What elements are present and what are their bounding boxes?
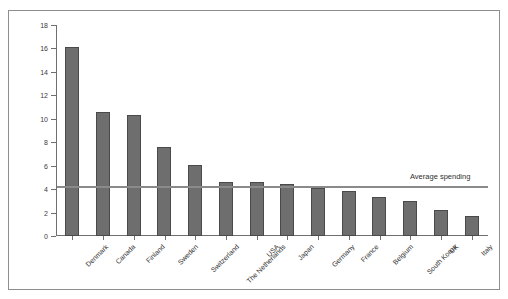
bar-slot	[333, 25, 364, 236]
bar[interactable]	[311, 188, 325, 236]
x-axis-tick-label: Switzerland	[210, 243, 241, 274]
bar-slot	[303, 25, 334, 236]
bar[interactable]	[280, 184, 294, 236]
y-axis-tick-label: 0	[44, 233, 48, 240]
x-axis-tick	[72, 236, 73, 240]
x-axis-tick-label: Denmark	[85, 243, 110, 268]
bar[interactable]	[372, 197, 386, 236]
average-spending-label: Average spending	[410, 172, 470, 181]
bar[interactable]	[127, 115, 141, 236]
y-axis-tick	[51, 48, 56, 49]
x-axis-tick	[103, 236, 104, 240]
bar-slot	[211, 25, 242, 236]
x-axis-tick-label: Canada	[114, 243, 136, 265]
x-axis-tick	[134, 236, 135, 240]
bar[interactable]	[157, 147, 171, 236]
y-axis-tick-label: 10	[40, 115, 48, 122]
figure-caption	[8, 0, 428, 5]
x-axis-tick-label: Japan	[297, 243, 315, 261]
bar[interactable]	[250, 182, 264, 236]
bar-slot	[149, 25, 180, 236]
y-axis-tick-label: 14	[40, 68, 48, 75]
x-axis-tick	[318, 236, 319, 240]
x-axis-tick	[410, 236, 411, 240]
y-axis-tick-label: 4	[44, 186, 48, 193]
bar[interactable]	[434, 210, 448, 236]
bar[interactable]	[342, 191, 356, 236]
x-axis-tick	[195, 236, 196, 240]
y-axis-tick	[51, 189, 56, 190]
chart-frame: % 024681012141618 DenmarkCanadaFinlandSw…	[8, 10, 500, 290]
bar-slot	[241, 25, 272, 236]
y-axis-tick-label: 8	[44, 139, 48, 146]
y-axis-tick-label: 12	[40, 92, 48, 99]
bar-slot	[395, 25, 426, 236]
chart-page: % 024681012141618 DenmarkCanadaFinlandSw…	[0, 0, 508, 299]
y-axis-tick-label: 6	[44, 162, 48, 169]
bar-slot	[426, 25, 457, 236]
y-axis-tick	[51, 119, 56, 120]
y-axis-tick	[51, 95, 56, 96]
y-axis-tick	[51, 25, 56, 26]
y-axis-tick	[51, 213, 56, 214]
x-axis-tick	[441, 236, 442, 240]
bar-slot	[272, 25, 303, 236]
bar[interactable]	[96, 112, 110, 236]
bar[interactable]	[465, 216, 479, 236]
y-axis-tick	[51, 166, 56, 167]
x-axis-tick-label: Finland	[145, 243, 166, 264]
x-axis-tick-label: Italy	[479, 243, 493, 257]
bar-slot	[118, 25, 149, 236]
x-axis-tick	[165, 236, 166, 240]
x-axis-tick-label: The Netherlands	[245, 243, 287, 285]
bar-series: DenmarkCanadaFinlandSwedenSwitzerlandThe…	[57, 25, 488, 236]
bar-slot	[456, 25, 487, 236]
x-axis-tick	[226, 236, 227, 240]
average-spending-line	[57, 186, 488, 188]
y-axis-tick	[51, 236, 56, 237]
y-axis-tick-label: 18	[40, 22, 48, 29]
plot-area: % 024681012141618 DenmarkCanadaFinlandSw…	[56, 25, 488, 236]
x-axis-tick	[349, 236, 350, 240]
x-axis-tick-label: Belgium	[391, 243, 414, 266]
x-axis-tick	[380, 236, 381, 240]
bar-slot	[364, 25, 395, 236]
x-axis-tick	[472, 236, 473, 240]
x-axis-tick-label: Germany	[330, 243, 355, 268]
bar-slot	[180, 25, 211, 236]
bar[interactable]	[65, 47, 79, 236]
x-axis-tick	[257, 236, 258, 240]
bar[interactable]	[188, 165, 202, 237]
bar-slot	[88, 25, 119, 236]
x-axis-tick-label: France	[359, 243, 379, 263]
bar[interactable]	[219, 182, 233, 236]
y-axis-tick	[51, 72, 56, 73]
y-axis-tick-label: 16	[40, 45, 48, 52]
y-axis-tick	[51, 142, 56, 143]
x-axis-tick	[287, 236, 288, 240]
bar[interactable]	[403, 201, 417, 236]
y-axis-tick-label: 2	[44, 209, 48, 216]
x-axis-tick-label: Sweden	[176, 243, 199, 266]
bar-slot	[57, 25, 88, 236]
